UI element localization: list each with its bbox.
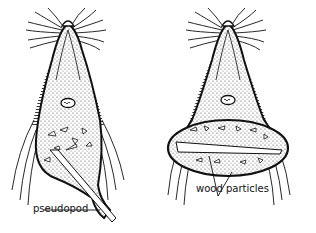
protozoa-illustration xyxy=(0,0,316,233)
left-body xyxy=(36,24,110,218)
left-organism xyxy=(12,8,124,222)
right-cap xyxy=(222,21,234,26)
left-cap xyxy=(62,21,74,26)
wood-particles-label: wood particles xyxy=(196,184,269,194)
right-organism xyxy=(168,8,290,205)
pseudopod-label: pseudopod xyxy=(33,204,88,214)
diagram-canvas: pseudopod wood particles xyxy=(0,0,316,233)
